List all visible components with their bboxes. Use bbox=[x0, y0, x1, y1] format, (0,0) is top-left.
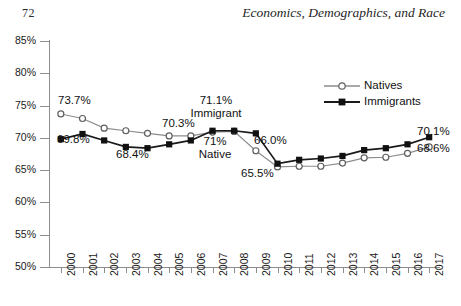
data-point-natives bbox=[253, 148, 259, 154]
data-point-immigrants bbox=[404, 141, 410, 147]
page-number: 72 bbox=[22, 6, 35, 21]
data-point-natives bbox=[58, 111, 64, 117]
legend-marker-natives-icon bbox=[322, 78, 362, 94]
data-point-natives bbox=[340, 160, 346, 166]
data-point-immigrants bbox=[383, 145, 389, 151]
data-point-immigrants bbox=[318, 155, 324, 161]
data-label: 70.1% bbox=[417, 125, 450, 138]
data-label: 71.1% bbox=[186, 94, 246, 107]
data-point-natives bbox=[318, 163, 324, 169]
data-label: 68.6% bbox=[417, 142, 450, 155]
chart-series-layer bbox=[0, 30, 461, 306]
data-point-immigrants bbox=[209, 128, 215, 134]
chart-figure: 85%80%75%70%65%60%55%50% 200020012002200… bbox=[0, 30, 461, 306]
data-point-natives bbox=[80, 115, 86, 121]
data-label: 68.4% bbox=[116, 148, 149, 161]
data-point-natives bbox=[166, 133, 172, 139]
legend-label-natives: Natives bbox=[364, 79, 402, 91]
data-point-immigrants bbox=[339, 153, 345, 159]
data-point-natives bbox=[361, 155, 367, 161]
running-title: Economics, Demographics, and Race bbox=[242, 5, 445, 21]
page-root: 72 Economics, Demographics, and Race 85%… bbox=[0, 0, 461, 306]
data-point-immigrants bbox=[361, 147, 367, 153]
data-point-natives bbox=[101, 125, 107, 131]
legend-marker-immigrants-icon bbox=[322, 94, 362, 110]
data-point-natives bbox=[145, 130, 151, 136]
data-point-immigrants bbox=[274, 161, 280, 167]
legend-item-immigrants: Immigrants bbox=[322, 94, 442, 110]
data-point-natives bbox=[383, 154, 389, 160]
data-label: Native bbox=[186, 148, 244, 161]
data-label: 65.5% bbox=[241, 167, 274, 180]
data-point-natives bbox=[405, 150, 411, 156]
data-point-immigrants bbox=[296, 157, 302, 163]
legend-item-natives: Natives bbox=[322, 78, 442, 94]
data-point-natives bbox=[296, 163, 302, 169]
data-point-immigrants bbox=[166, 141, 172, 147]
legend-label-immigrants: Immigrants bbox=[364, 95, 421, 107]
data-label: 71% bbox=[192, 135, 238, 148]
chart-legend: Natives Immigrants bbox=[322, 78, 442, 110]
data-label: 69.8% bbox=[57, 133, 90, 146]
data-label: 66.0% bbox=[254, 134, 287, 147]
data-label: Immigrant bbox=[178, 107, 254, 120]
data-point-immigrants bbox=[231, 128, 237, 134]
data-point-immigrants bbox=[101, 137, 107, 143]
running-head: 72 Economics, Demographics, and Race bbox=[0, 6, 461, 26]
data-point-natives bbox=[123, 128, 129, 134]
data-label: 73.7% bbox=[58, 94, 91, 107]
